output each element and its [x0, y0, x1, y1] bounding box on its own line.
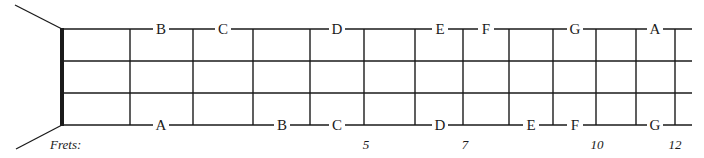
note-bottom-G: G [650, 117, 661, 133]
note-top-B: B [156, 21, 166, 37]
strings [62, 29, 692, 125]
note-bottom-F: F [571, 117, 579, 133]
note-top-E: E [435, 21, 444, 37]
headstock-line-top [15, 5, 62, 29]
note-bottom-A: A [156, 117, 167, 133]
fret-number-7: 7 [462, 137, 469, 152]
fret-number-12: 12 [669, 137, 683, 152]
note-top-G: G [570, 21, 581, 37]
frets [130, 29, 675, 125]
headstock-lines [15, 5, 62, 149]
fretboard-diagram: BCDEFGAABCDEFG 571012 Frets: [0, 0, 704, 158]
note-top-F: F [482, 21, 490, 37]
nut-bar [60, 28, 64, 126]
fret-numbers: 571012 [363, 137, 682, 152]
note-top-C: C [218, 21, 228, 37]
fret-number-5: 5 [363, 137, 370, 152]
nut [60, 28, 64, 126]
note-bottom-D: D [435, 117, 446, 133]
note-bottom-C: C [332, 117, 342, 133]
frets-label: Frets: [49, 137, 81, 152]
note-top-A: A [650, 21, 661, 37]
note-bottom-B: B [277, 117, 287, 133]
fret-number-10: 10 [591, 137, 605, 152]
note-labels: BCDEFGAABCDEFG [153, 21, 663, 133]
note-top-D: D [332, 21, 343, 37]
note-bottom-E: E [526, 117, 535, 133]
